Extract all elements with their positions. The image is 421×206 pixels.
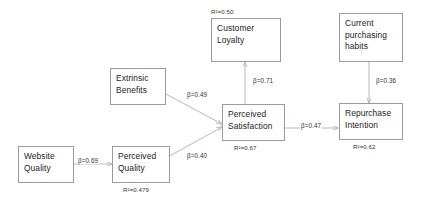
node-customer-loyalty[interactable]: Customer Loyalty	[211, 18, 281, 62]
node-extrinsic-benefits-line-2: Benefits	[116, 85, 160, 97]
node-repurchase-intention[interactable]: Repurchase Intention	[339, 103, 403, 140]
r2-perceived-quality: R²=0.479	[123, 186, 149, 193]
node-perceived-quality-line-1: Perceived	[118, 151, 164, 163]
r2-repurchase-intention: R²=0.62	[353, 143, 376, 150]
node-repurchase-intention-line-1: Repurchase	[345, 108, 397, 120]
path-diagram: R²=0.50 Customer Loyalty Current purchas…	[0, 0, 421, 206]
r2-perceived-satisfaction: R²=0.67	[234, 144, 257, 151]
edge-label-benefits-to-sat: β=0.49	[186, 91, 208, 98]
edge-label-sat-to-repurchase: β=0.47	[300, 122, 322, 129]
edge-label-quality-to-sat: β=0.40	[186, 152, 208, 159]
node-extrinsic-benefits-line-1: Extrinsic	[116, 73, 160, 85]
node-current-habits-line-2: purchasing	[345, 30, 397, 42]
edge-label-habits-to-repurchase: β=0.36	[375, 77, 397, 84]
node-website-quality[interactable]: Website Quality	[18, 146, 74, 183]
node-current-habits-line-3: habits	[345, 41, 397, 53]
edge-benefits-to-sat	[166, 94, 222, 124]
node-perceived-satisfaction-line-1: Perceived	[228, 109, 279, 121]
r2-customer-loyalty: R²=0.50	[211, 8, 234, 15]
node-website-quality-line-1: Website	[24, 151, 68, 163]
node-extrinsic-benefits[interactable]: Extrinsic Benefits	[110, 68, 166, 105]
node-perceived-satisfaction-line-2: Satisfaction	[228, 121, 279, 133]
node-customer-loyalty-line-2: Loyalty	[217, 35, 275, 47]
node-current-habits-line-1: Current	[345, 18, 397, 30]
node-perceived-quality[interactable]: Perceived Quality	[112, 146, 170, 183]
node-website-quality-line-2: Quality	[24, 163, 68, 175]
node-customer-loyalty-line-1: Customer	[217, 23, 275, 35]
node-repurchase-intention-line-2: Intention	[345, 120, 397, 132]
node-current-purchasing-habits[interactable]: Current purchasing habits	[339, 13, 403, 62]
edge-label-sat-to-loyalty: β=0.71	[252, 77, 274, 84]
edge-label-website-to-quality: β=0.69	[77, 157, 99, 164]
node-perceived-quality-line-2: Quality	[118, 163, 164, 175]
node-perceived-satisfaction[interactable]: Perceived Satisfaction	[222, 104, 285, 141]
